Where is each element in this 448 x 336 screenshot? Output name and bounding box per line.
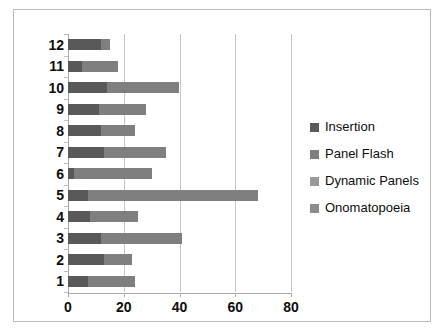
bar-row[interactable] xyxy=(68,125,135,136)
chart-container: 121110987654321 020406080 InsertionPanel… xyxy=(13,9,431,322)
bar-segment[interactable] xyxy=(101,39,109,50)
bar-row[interactable] xyxy=(68,190,258,201)
y-axis-label: 1 xyxy=(24,274,64,288)
bar-segment[interactable] xyxy=(68,190,88,201)
y-axis-label: 11 xyxy=(24,59,64,73)
x-tick-mark xyxy=(180,293,181,297)
y-tick-mark xyxy=(64,56,68,57)
y-tick-mark xyxy=(64,249,68,250)
legend-label: Dynamic Panels xyxy=(325,174,419,188)
bar-segment[interactable] xyxy=(68,82,107,93)
y-tick-mark xyxy=(64,163,68,164)
x-tick-mark xyxy=(235,293,236,297)
bar-row[interactable] xyxy=(68,211,138,222)
x-tick-mark xyxy=(291,293,292,297)
legend-item[interactable]: Onomatopoeia xyxy=(310,201,430,215)
bar-segment[interactable] xyxy=(104,254,132,265)
bar-segment[interactable] xyxy=(88,276,135,287)
y-axis-label: 3 xyxy=(24,231,64,245)
bar-row[interactable] xyxy=(68,233,182,244)
bar-row[interactable] xyxy=(68,104,146,115)
y-tick-mark xyxy=(64,99,68,100)
legend-label: Panel Flash xyxy=(325,147,394,161)
x-axis-label: 0 xyxy=(64,299,72,315)
bar-segment[interactable] xyxy=(68,147,104,158)
y-axis-label: 8 xyxy=(24,124,64,138)
y-tick-mark xyxy=(64,206,68,207)
bar-segment[interactable] xyxy=(82,61,118,72)
legend-swatch-icon xyxy=(310,123,319,132)
bar-row[interactable] xyxy=(68,254,132,265)
bar-segment[interactable] xyxy=(88,190,258,201)
bar-row[interactable] xyxy=(68,82,179,93)
bar-segment[interactable] xyxy=(68,39,101,50)
y-axis-label: 2 xyxy=(24,253,64,267)
x-axis-label: 80 xyxy=(283,299,299,315)
bar-segment[interactable] xyxy=(101,125,134,136)
bar-row[interactable] xyxy=(68,168,152,179)
x-axis-label: 40 xyxy=(172,299,188,315)
bar-segment[interactable] xyxy=(90,211,137,222)
bar-segment[interactable] xyxy=(68,104,99,115)
bar-row[interactable] xyxy=(68,61,118,72)
bar-segment[interactable] xyxy=(68,254,104,265)
y-axis-label: 4 xyxy=(24,210,64,224)
bar-segment[interactable] xyxy=(99,104,146,115)
bar-row[interactable] xyxy=(68,39,110,50)
y-tick-mark xyxy=(64,77,68,78)
legend-item[interactable]: Dynamic Panels xyxy=(310,174,430,188)
x-axis-label: 20 xyxy=(116,299,132,315)
legend-swatch-icon xyxy=(310,204,319,213)
bar-segment[interactable] xyxy=(101,233,182,244)
bar-segment[interactable] xyxy=(68,233,101,244)
y-tick-mark xyxy=(64,228,68,229)
bar-segment[interactable] xyxy=(68,276,88,287)
y-tick-mark xyxy=(64,120,68,121)
y-tick-mark xyxy=(64,34,68,35)
legend-label: Onomatopoeia xyxy=(325,201,410,215)
y-axis-label: 10 xyxy=(24,81,64,95)
y-axis-label: 5 xyxy=(24,188,64,202)
x-tick-mark xyxy=(68,293,69,297)
bar-segment[interactable] xyxy=(104,147,165,158)
y-tick-mark xyxy=(64,271,68,272)
bar-segment[interactable] xyxy=(68,125,101,136)
y-axis-labels: 121110987654321 xyxy=(19,34,64,292)
y-axis-label: 9 xyxy=(24,102,64,116)
legend-swatch-icon xyxy=(310,150,319,159)
x-tick-mark xyxy=(124,293,125,297)
bar-row[interactable] xyxy=(68,276,135,287)
gridline xyxy=(291,34,292,292)
bar-segment[interactable] xyxy=(107,82,179,93)
legend-label: Insertion xyxy=(325,120,375,134)
y-tick-mark xyxy=(64,185,68,186)
bar-segment[interactable] xyxy=(74,168,152,179)
legend-item[interactable]: Insertion xyxy=(310,120,430,134)
legend-item[interactable]: Panel Flash xyxy=(310,147,430,161)
y-axis-label: 12 xyxy=(24,38,64,52)
y-tick-mark xyxy=(64,292,68,293)
y-axis-label: 6 xyxy=(24,167,64,181)
chart-legend: InsertionPanel FlashDynamic PanelsOnomat… xyxy=(310,120,430,228)
y-axis-label: 7 xyxy=(24,145,64,159)
gridline xyxy=(235,34,236,292)
gridline xyxy=(180,34,181,292)
bar-row[interactable] xyxy=(68,147,166,158)
x-axis-label: 60 xyxy=(227,299,243,315)
bar-segment[interactable] xyxy=(68,211,90,222)
bar-segment[interactable] xyxy=(68,61,82,72)
legend-swatch-icon xyxy=(310,177,319,186)
y-tick-mark xyxy=(64,142,68,143)
